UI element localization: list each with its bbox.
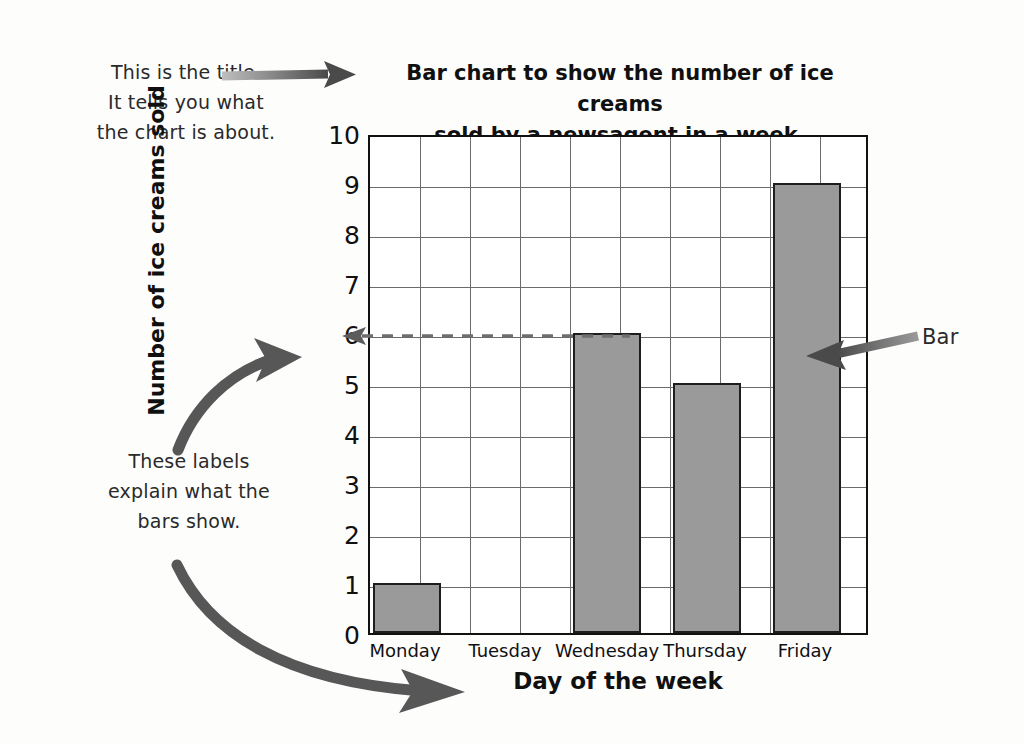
y-tick-label: 4 — [318, 423, 360, 448]
x-tick-label-thursday: Thursday — [655, 640, 755, 661]
bar-monday — [373, 583, 441, 633]
y-tick-label: 1 — [318, 573, 360, 598]
annotation-bar-note: Bar — [922, 322, 959, 352]
y-tick-label: 2 — [318, 523, 360, 548]
y-tick-label: 6 — [318, 323, 360, 348]
x-tick-label-wednesday: Wednesday — [555, 640, 655, 661]
y-axis-ticks: 012345678910 — [318, 135, 360, 635]
arrow-to-y-axis-label-icon — [150, 330, 330, 460]
gridline-vertical — [670, 137, 671, 633]
y-tick-label: 10 — [318, 123, 360, 148]
annotation-title-note: This is the title. It tells you what the… — [46, 57, 326, 147]
y-tick-label: 0 — [318, 623, 360, 648]
x-tick-label-friday: Friday — [755, 640, 855, 661]
gridline-vertical — [770, 137, 771, 633]
gridline-vertical — [470, 137, 471, 633]
x-tick-label-monday: Monday — [355, 640, 455, 661]
plot-area — [368, 135, 868, 635]
y-tick-label: 8 — [318, 223, 360, 248]
gridline-vertical — [570, 137, 571, 633]
y-tick-label: 7 — [318, 273, 360, 298]
y-tick-label: 5 — [318, 373, 360, 398]
gridline-vertical — [520, 137, 521, 633]
x-axis-title: Day of the week — [368, 668, 868, 694]
chart-title-line-1: Bar chart to show the number of ice crea… — [360, 58, 880, 120]
bar-wednesday — [573, 333, 641, 633]
y-tick-label: 9 — [318, 173, 360, 198]
bar-friday — [773, 183, 841, 633]
gridline-vertical — [420, 137, 421, 633]
worksheet-page: This is the title. It tells you what the… — [0, 0, 1024, 744]
y-axis-title: Number of ice creams sold — [144, 81, 169, 421]
y-tick-label: 3 — [318, 473, 360, 498]
x-tick-label-tuesday: Tuesday — [455, 640, 555, 661]
x-axis-ticks: MondayTuesdayWednesdayThursdayFriday — [368, 640, 868, 668]
annotation-labels-note: These labels explain what the bars show. — [74, 446, 304, 536]
bar-thursday — [673, 383, 741, 633]
